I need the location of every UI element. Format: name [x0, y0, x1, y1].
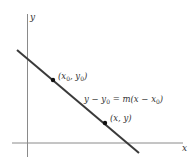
point-slope-equation: y − y0 = m(x − x0) [83, 94, 163, 105]
point-x0-y0-label: (x0, y0) [58, 71, 87, 82]
y-axis-label: y [29, 12, 36, 22]
point-slope-diagram: y x (x0, y0) y − y0 = m(x − x0) (x, y) [0, 0, 193, 161]
point-x-y-label: (x, y) [110, 113, 132, 123]
x-axis-label: x [182, 143, 187, 153]
point-x-y [103, 121, 107, 125]
point-x0-y0 [51, 78, 55, 82]
